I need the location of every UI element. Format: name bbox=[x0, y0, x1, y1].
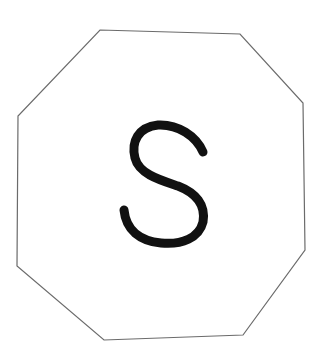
octagon-outline bbox=[17, 30, 305, 340]
octagon-figure: S bbox=[0, 0, 325, 362]
